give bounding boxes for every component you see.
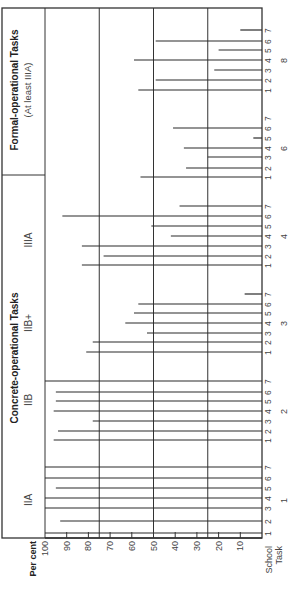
school-label: 3 [263, 68, 273, 73]
chart-frame [2, 8, 262, 538]
tick-label-20: 20 [214, 541, 224, 551]
school-label: 1 [263, 88, 273, 93]
level-IIIA: IIIA [23, 232, 34, 247]
school-label: 2 [263, 519, 273, 524]
task-label: 6 [279, 146, 289, 151]
task-label: 1 [279, 498, 289, 503]
task-label: 4 [279, 234, 289, 239]
school-label: 2 [263, 166, 273, 171]
school-label: 5 [263, 224, 273, 229]
school-label: 3 [263, 331, 273, 336]
tick-label-40: 40 [170, 541, 180, 551]
school-axis-label: School [264, 546, 274, 574]
school-label: 3 [263, 244, 273, 249]
school-label: 4 [263, 234, 273, 239]
tick-label-50: 50 [149, 541, 159, 551]
school-label: 6 [263, 302, 273, 307]
school-label: 5 [263, 399, 273, 404]
tick-label-90: 90 [62, 541, 72, 551]
tick-label-10: 10 [235, 541, 245, 551]
tick-label-60: 60 [127, 541, 137, 551]
school-label: 2 [263, 254, 273, 259]
task-axis-label: Task [274, 546, 284, 565]
school-label: 6 [263, 39, 273, 44]
school-label: 1 [263, 350, 273, 355]
school-label: 5 [263, 48, 273, 53]
level-IIBplus: IIB+ [23, 314, 34, 332]
school-label: 7 [263, 292, 273, 297]
tick-label-70: 70 [105, 541, 115, 551]
school-label: 4 [263, 58, 273, 63]
school-label: 3 [263, 419, 273, 424]
school-label: 5 [263, 136, 273, 141]
task-label: 2 [279, 409, 289, 414]
school-label: 6 [263, 214, 273, 219]
school-label: 2 [263, 429, 273, 434]
school-label: 4 [263, 409, 273, 414]
formal-heading: Formal-operational Tasks [9, 29, 20, 150]
school-label: 7 [263, 204, 273, 209]
school-label: 1 [263, 175, 273, 180]
labels: 1234567112345672123456731234567412345676… [9, 28, 289, 577]
school-label: 4 [263, 496, 273, 501]
school-label: 3 [263, 155, 273, 160]
formal-subheading: (At least IIIA) [22, 63, 33, 118]
task-label: 3 [279, 321, 289, 326]
level-IIB: IIB [23, 394, 34, 407]
school-label: 2 [263, 78, 273, 83]
school-label: 7 [263, 28, 273, 33]
school-label: 7 [263, 379, 273, 384]
gridlines [99, 8, 208, 538]
tick-label-100: 100 [40, 541, 50, 556]
rotated-bar-chart: 100908070605040302010 123456711234567212… [0, 0, 299, 596]
school-label: 4 [263, 321, 273, 326]
school-label: 7 [263, 116, 273, 121]
school-label: 7 [263, 465, 273, 470]
per-cent-label: Per cent [28, 541, 38, 577]
school-label: 1 [263, 438, 273, 443]
school-label: 4 [263, 146, 273, 151]
school-label: 1 [263, 263, 273, 268]
school-label: 6 [263, 390, 273, 395]
tick-label-80: 80 [83, 541, 93, 551]
school-label: 6 [263, 126, 273, 131]
school-label: 2 [263, 340, 273, 345]
level-IIA: IIA [23, 494, 34, 507]
school-label: 3 [263, 506, 273, 511]
outer-frame [2, 8, 262, 538]
school-label: 5 [263, 311, 273, 316]
tick-label-30: 30 [192, 541, 202, 551]
concrete-heading: Concrete-operational Tasks [9, 292, 20, 423]
school-label: 1 [263, 531, 273, 536]
school-label: 6 [263, 476, 273, 481]
percent-axis: 100908070605040302010 [40, 532, 262, 556]
task-label: 8 [279, 58, 289, 63]
school-label: 5 [263, 486, 273, 491]
